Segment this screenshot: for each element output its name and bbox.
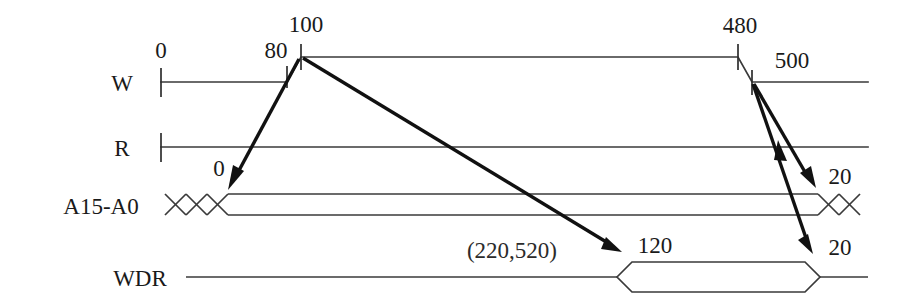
arrow-w-to-wdr (303, 58, 622, 252)
signal-row-wdr (186, 262, 868, 292)
time-label-500: 500 (775, 48, 810, 73)
annotation-address-delay: 0 (213, 156, 225, 181)
annotation-data-hold: 20 (829, 235, 852, 260)
signal-row-r (161, 133, 868, 162)
signal-label-r: R (114, 136, 130, 161)
timing-diagram-canvas: W R A15-A0 WDR 0 80 100 480 500 0 120 (2… (0, 0, 908, 306)
time-label-480: 480 (723, 13, 758, 38)
wdr-valid-body (617, 262, 820, 292)
signal-row-address-bus (165, 194, 860, 215)
signal-label-w: W (111, 71, 133, 96)
signal-label-address-bus: A15-A0 (63, 194, 138, 219)
address-bus-right-crosshatch (818, 194, 860, 215)
arrow-head-up-marker (774, 140, 787, 161)
arrow-w-to-address (228, 59, 299, 190)
annotation-data-delay: 120 (638, 233, 673, 258)
annotation-address-hold: 20 (829, 164, 852, 189)
annotation-range: (220,520) (467, 238, 557, 263)
address-bus-left-crosshatch (165, 194, 228, 215)
time-label-80: 80 (265, 38, 288, 63)
timing-diagram: W R A15-A0 WDR 0 80 100 480 500 0 120 (2… (0, 0, 908, 306)
time-label-100: 100 (289, 12, 324, 37)
signal-label-wdr: WDR (113, 266, 167, 291)
time-label-0: 0 (155, 38, 167, 63)
